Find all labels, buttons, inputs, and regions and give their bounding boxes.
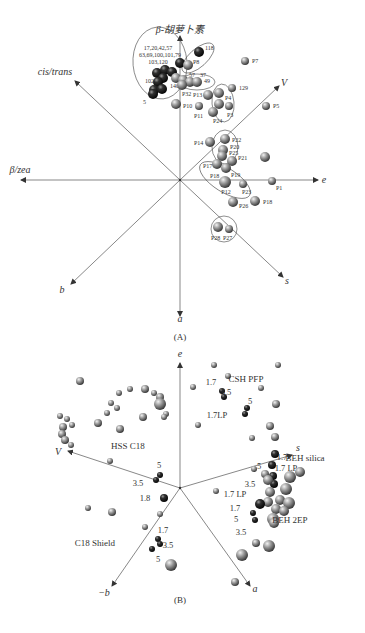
light-sphere-point <box>213 222 223 232</box>
light-sphere-point <box>195 102 203 110</box>
light-sphere-point <box>104 410 110 416</box>
light-sphere-point <box>225 225 233 233</box>
light-sphere-point <box>228 197 238 207</box>
dark-sphere-point <box>160 494 168 502</box>
light-sphere-point <box>171 99 181 109</box>
dark-sphere-point <box>255 499 265 509</box>
light-sphere-point <box>263 540 275 552</box>
point-label: P18 <box>263 199 272 205</box>
light-sphere-point <box>165 559 177 571</box>
light-sphere-point <box>141 385 149 393</box>
light-sphere-point <box>252 539 260 547</box>
point-label: 118 <box>205 45 214 51</box>
dark-sphere-point <box>157 472 163 478</box>
axis-label-b: b <box>60 284 65 295</box>
point-label: P32 <box>182 91 191 97</box>
particle-size-label: 5 <box>257 461 261 471</box>
point-label: P27 <box>223 235 232 241</box>
particle-size-label: 1.8 <box>140 493 151 503</box>
point-label: 49 <box>204 78 210 84</box>
point-label: P18 <box>210 173 219 179</box>
dark-sphere-point <box>148 89 158 99</box>
light-sphere-point <box>241 57 249 65</box>
cluster-annotation: 103,120 <box>148 59 168 65</box>
point-label: P7 <box>252 58 258 64</box>
axis-label-a: a <box>253 583 258 594</box>
point-label: P13 <box>193 92 202 98</box>
point-label: P24 <box>213 118 222 124</box>
panel-b-biplot: eVs−baCSH PFPHSS C18BEH silicaBEH 2EPC18… <box>55 348 325 605</box>
point-label: P10 <box>183 103 192 109</box>
light-sphere-point <box>266 422 274 430</box>
group-label: BEH silica <box>285 453 324 463</box>
axis-label-beta-zea: β/zea <box>8 164 30 175</box>
dark-sphere-point <box>153 477 159 483</box>
light-sphere-point <box>139 413 147 421</box>
light-sphere-point <box>161 414 167 420</box>
light-sphere-point <box>271 433 279 441</box>
particle-size-label: 1.7 <box>158 525 169 535</box>
light-sphere-point <box>59 423 67 431</box>
axis-label-V: V <box>281 77 289 88</box>
axis-label-a: a <box>178 313 183 324</box>
particle-size-label: 1.7 <box>206 377 217 387</box>
axis-label-e: e <box>178 348 183 359</box>
particle-size-label: 1.7 <box>277 452 288 462</box>
axis-label-beta-carotene: β-胡萝卜素 <box>155 24 205 35</box>
particle-size-label: 3.5 <box>236 527 247 537</box>
point-label: P5 <box>273 103 279 109</box>
particle-size-label: 3.5 <box>133 478 144 488</box>
light-sphere-point <box>57 413 63 419</box>
dark-sphere-point <box>242 411 248 417</box>
point-label: P22 <box>232 137 241 143</box>
light-sphere-point <box>249 435 255 441</box>
light-sphere-point <box>219 176 231 188</box>
panel-a-biplot: β-胡萝卜素cis/transVβ/zeaebsa118P7P810214055… <box>8 24 326 342</box>
dark-sphere-point <box>252 517 258 523</box>
light-sphere-point <box>260 152 270 162</box>
origin-dot <box>179 179 181 181</box>
axis-label-e: e <box>322 174 327 185</box>
particle-size-label: 5 <box>157 460 161 470</box>
axis-label-s: s <box>296 442 300 453</box>
light-sphere-point <box>214 99 224 109</box>
panel-caption: (A) <box>174 332 187 342</box>
light-sphere-point <box>69 422 75 428</box>
light-sphere-point <box>225 102 233 110</box>
light-sphere-point <box>190 384 196 390</box>
light-sphere-point <box>228 84 236 92</box>
panel-caption: (B) <box>174 595 186 605</box>
dark-sphere-point <box>250 510 256 516</box>
axis-b <box>71 180 180 284</box>
point-label: P25 <box>229 150 238 156</box>
axis-label-s: s <box>285 275 289 286</box>
axis-label-minus-b: −b <box>98 587 110 598</box>
light-sphere-point <box>280 483 292 495</box>
point-label: P14 <box>194 140 203 146</box>
light-sphere-point <box>114 405 120 411</box>
point-label: P21 <box>238 155 247 161</box>
light-sphere-point <box>212 159 222 169</box>
particle-size-label: 1.7 LP <box>275 463 298 473</box>
figure-container: β-胡萝卜素cis/transVβ/zeaebsa118P7P810214055… <box>0 0 365 633</box>
light-sphere-point <box>268 177 276 185</box>
light-sphere-point <box>108 400 114 406</box>
group-label: CSH PFP <box>229 374 264 384</box>
light-sphere-point <box>275 362 281 368</box>
particle-size-label: 1.7 LP <box>224 489 247 499</box>
point-label: P17 <box>203 163 212 169</box>
light-sphere-point <box>195 422 201 428</box>
light-sphere-point <box>214 88 224 98</box>
light-sphere-point <box>68 442 74 448</box>
light-sphere-point <box>183 60 193 70</box>
axis-label-V: V <box>55 446 63 457</box>
point-label: P1 <box>276 185 282 191</box>
point-label: P4 <box>225 95 231 101</box>
particle-size-label: 3.5 <box>245 479 256 489</box>
light-sphere-point <box>192 77 202 87</box>
light-sphere-point <box>177 80 187 90</box>
point-label: P19 <box>231 172 240 178</box>
light-sphere-point <box>250 196 260 206</box>
point-label: 5 <box>143 99 146 105</box>
light-sphere-point <box>76 377 84 385</box>
